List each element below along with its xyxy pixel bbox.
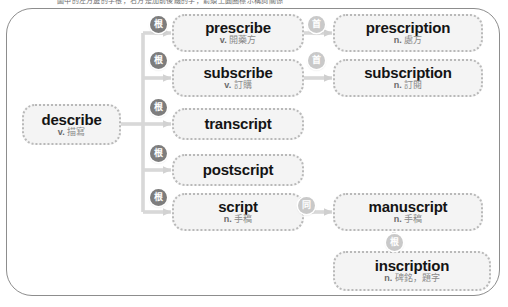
node-prescription[interactable]: prescription n. 處方 [333, 14, 483, 52]
gloss-label: n. 手稿 [224, 215, 253, 224]
relation-badge-prescribe-prescription: 首 [308, 16, 325, 33]
gloss-label: n. 手稿 [394, 215, 423, 224]
gloss-text: 訂閱 [404, 80, 422, 90]
relation-badge-root-subscribe: 根 [150, 52, 167, 69]
gloss-text: 開藥方 [229, 35, 256, 45]
gloss-text: 訂購 [234, 80, 252, 90]
word-label: prescribe [205, 20, 271, 35]
word-label: inscription [375, 258, 449, 273]
gloss-text: 處方 [404, 35, 422, 45]
pos-label: n. [384, 273, 392, 283]
relation-badge-subscribe-subscription: 首 [308, 52, 325, 69]
gloss-label: v. 描寫 [58, 128, 85, 137]
relation-badge-root-postscript: 根 [150, 145, 167, 162]
node-subscribe[interactable]: subscribe v. 訂購 [172, 59, 304, 97]
gloss-text: 手稿 [234, 214, 252, 224]
node-manuscript[interactable]: manuscript n. 手稿 [333, 193, 483, 231]
pos-label: n. [394, 80, 402, 90]
node-script[interactable]: script n. 手稿 [172, 193, 304, 231]
gloss-text: 碑銘，題字 [395, 273, 440, 283]
relation-badge-root-prescribe: 根 [150, 16, 167, 33]
node-describe[interactable]: describe v. 描寫 [22, 104, 121, 145]
pos-label: v. [58, 127, 65, 137]
pos-label: n. [394, 214, 402, 224]
relation-badge-script-manuscript: 同 [298, 197, 315, 214]
gloss-label: n. 訂閱 [394, 81, 423, 90]
relation-badge-root-transcript: 根 [150, 99, 167, 116]
word-label: transcript [204, 116, 271, 131]
word-label: subscribe [203, 65, 272, 80]
node-transcript[interactable]: transcript [172, 108, 304, 140]
relation-badge-manuscript-inscription: 根 [386, 234, 403, 251]
word-label: script [218, 199, 258, 214]
word-label: postscript [203, 162, 274, 177]
node-prescribe[interactable]: prescribe v. 開藥方 [172, 14, 304, 52]
word-label: prescription [366, 20, 450, 35]
pos-label: v. [220, 35, 227, 45]
pos-label: v. [224, 80, 231, 90]
node-postscript[interactable]: postscript [172, 154, 304, 186]
gloss-text: 描寫 [67, 127, 85, 137]
word-label: subscription [364, 65, 452, 80]
relation-badge-root-script: 根 [150, 189, 167, 206]
node-subscription[interactable]: subscription n. 訂閱 [333, 59, 483, 97]
pos-label: n. [224, 214, 232, 224]
node-inscription[interactable]: inscription n. 碑銘，題字 [333, 251, 491, 291]
gloss-label: n. 碑銘，題字 [384, 274, 440, 283]
diagram-canvas: describe v. 描寫 prescribe v. 開藥方 subscrib… [0, 0, 508, 307]
gloss-text: 手稿 [404, 214, 422, 224]
word-label: manuscript [369, 199, 448, 214]
word-label: describe [41, 112, 101, 127]
pos-label: n. [394, 35, 402, 45]
gloss-label: v. 開藥方 [220, 36, 256, 45]
gloss-label: n. 處方 [394, 36, 423, 45]
gloss-label: v. 訂購 [224, 81, 251, 90]
